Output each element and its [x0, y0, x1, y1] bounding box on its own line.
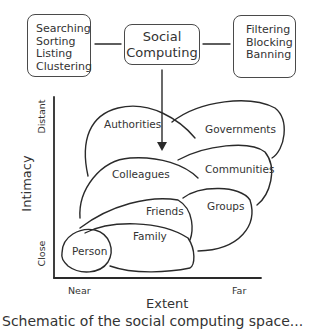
filter-item: Banning	[246, 49, 295, 62]
region-communities: Communities	[205, 163, 274, 175]
social-computing-box: Social Computing	[124, 24, 200, 65]
y-tick-close: Close	[36, 239, 47, 269]
title-line: Social	[125, 29, 199, 45]
x-tick-far: Far	[232, 285, 246, 296]
filter-item: Filtering	[246, 24, 295, 37]
region-authorities: Authorities	[104, 118, 161, 130]
y-axis-title: Intimacy	[19, 154, 34, 214]
method-item: Clustering	[36, 61, 90, 74]
method-item: Searching	[36, 23, 90, 36]
methods-box: Searching Sorting Listing Clustering	[27, 14, 91, 77]
figure-caption: Schematic of the social computing space.…	[2, 313, 303, 329]
arrow-head-icon	[157, 142, 167, 151]
title-line: Computing	[125, 45, 199, 61]
region-colleagues: Colleagues	[112, 168, 170, 180]
x-axis-title: Extent	[146, 296, 188, 311]
region-friends: Friends	[146, 205, 184, 217]
x-tick-near: Near	[68, 285, 91, 296]
region-person: Person	[72, 245, 107, 257]
y-tick-distant: Distant	[36, 97, 47, 137]
region-governments: Governments	[205, 123, 276, 135]
region-family: Family	[133, 230, 167, 242]
filters-box: Filtering Blocking Banning	[233, 15, 296, 78]
method-item: Listing	[36, 48, 90, 61]
region-groups: Groups	[207, 200, 244, 212]
